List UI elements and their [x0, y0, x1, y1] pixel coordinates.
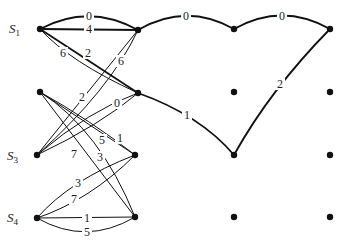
- edge-weight-label: 0: [183, 9, 189, 23]
- edge-weight-label: 2: [79, 90, 85, 104]
- edge-weight-label: 5: [84, 225, 90, 239]
- edge-weight-label: 3: [97, 150, 103, 164]
- edge-weight-label: 6: [118, 54, 124, 68]
- state-node-c2r1: [231, 89, 237, 95]
- state-node-c3r3: [327, 214, 333, 220]
- edge-weight-label: 5: [99, 133, 105, 147]
- trellis-diagram: 0462260157337150012S1S3S4: [0, 0, 354, 247]
- state-node-c2r0: [231, 26, 237, 32]
- state-node-c3r1: [327, 89, 333, 95]
- state-label-S1: S1: [9, 21, 20, 38]
- state-node-c1r0: [135, 27, 141, 33]
- edge-c0r3-c1r2: [37, 155, 135, 218]
- state-node-c0r2: [34, 152, 40, 158]
- edge-weight-label: 3: [75, 176, 81, 190]
- state-node-c3r0: [327, 26, 333, 32]
- edge-weight-label: 2: [277, 77, 283, 91]
- edge-weight-label: 1: [84, 211, 90, 225]
- edge-weight-label: 1: [117, 131, 123, 145]
- edge-weight-label: 6: [60, 46, 66, 60]
- edge-c1r1-c2r2: [138, 93, 234, 155]
- edge-c0r3-c1r2: [37, 155, 135, 218]
- edge-weight-label: 1: [184, 108, 190, 122]
- edge-weight-label: 0: [279, 9, 285, 23]
- edge-weight-label: 7: [71, 192, 77, 206]
- state-label-S4: S4: [7, 210, 19, 227]
- edge-weight-label: 0: [114, 96, 120, 110]
- edge-weight-label: 0: [86, 9, 92, 23]
- state-node-c2r2: [231, 152, 237, 158]
- state-node-c1r2: [132, 152, 138, 158]
- edge-weight-label: 4: [86, 22, 92, 36]
- state-node-c1r1: [135, 90, 141, 96]
- state-node-c2r3: [231, 214, 237, 220]
- state-node-c0r0: [37, 26, 43, 32]
- state-node-c1r3: [132, 214, 138, 220]
- edge-weight-label: 2: [85, 46, 91, 60]
- state-node-c0r3: [34, 215, 40, 221]
- state-label-S3: S3: [7, 148, 19, 165]
- state-node-c0r1: [37, 89, 43, 95]
- trellis-svg: 0462260157337150012S1S3S4: [0, 0, 354, 247]
- state-node-c3r2: [327, 152, 333, 158]
- edge-c2r2-c3r0: [234, 29, 330, 155]
- edge-c0r1-c1r3: [40, 92, 135, 217]
- edge-weight-label: 7: [71, 147, 77, 161]
